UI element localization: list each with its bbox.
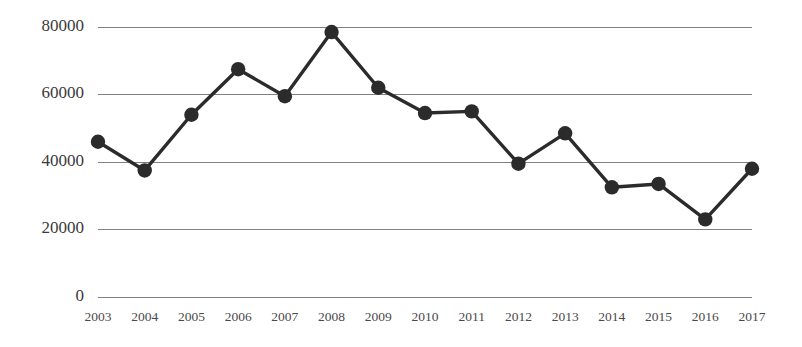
x-tick-label: 2013 [552,309,579,324]
data-point-marker [418,106,432,120]
x-tick-label: 2011 [458,309,485,324]
data-point-marker [698,212,712,226]
data-point-marker [278,89,292,103]
data-point-marker [91,135,105,149]
data-point-marker [324,25,338,39]
chart-canvas: 020000400006000080000 200320042005200620… [0,0,802,347]
data-point-marker [511,156,525,170]
data-point-marker [231,62,245,76]
data-point-marker [138,163,152,177]
y-tick-label: 0 [76,286,85,305]
data-point-marker [371,81,385,95]
x-tick-label: 2009 [365,309,392,324]
x-tick-label: 2012 [505,309,532,324]
y-tick-label: 20000 [42,218,85,237]
x-tick-label: 2016 [692,309,719,324]
data-point-marker [184,108,198,122]
x-tick-label: 2004 [131,309,158,324]
x-tick-label: 2015 [645,309,672,324]
x-tick-label: 2003 [85,309,112,324]
y-tick-label: 80000 [42,16,85,35]
x-tick-label: 2007 [271,309,298,324]
chart-background [0,0,802,347]
x-tick-label: 2017 [739,309,766,324]
x-tick-label: 2014 [598,309,625,324]
data-point-marker [605,180,619,194]
line-chart: 020000400006000080000 200320042005200620… [0,0,802,347]
x-tick-label: 2006 [225,309,252,324]
data-point-marker [745,162,759,176]
y-tick-label: 60000 [42,83,85,102]
x-tick-label: 2008 [318,309,345,324]
data-point-marker [651,177,665,191]
y-tick-label: 40000 [42,151,85,170]
x-tick-label: 2010 [412,309,439,324]
x-tick-label: 2005 [178,309,205,324]
x-axis-tick-labels: 2003200420052006200720082009201020112012… [85,309,766,324]
data-point-marker [465,104,479,118]
data-point-marker [558,126,572,140]
